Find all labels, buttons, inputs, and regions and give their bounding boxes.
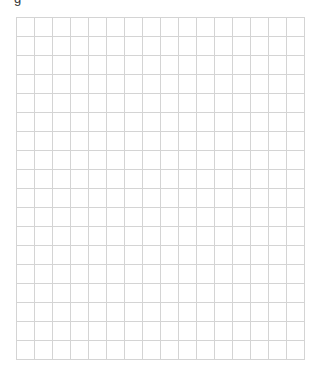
grid-cell	[251, 94, 269, 113]
grid-cell	[269, 170, 287, 189]
grid-cell	[89, 246, 107, 265]
grid-cell	[89, 18, 107, 37]
grid-cell	[71, 284, 89, 303]
grid-cell	[143, 284, 161, 303]
grid-cell	[161, 151, 179, 170]
grid-cell	[143, 151, 161, 170]
grid-cell	[107, 208, 125, 227]
grid-cell	[107, 18, 125, 37]
grid-cell	[179, 75, 197, 94]
grid-cell	[107, 113, 125, 132]
grid-cell	[107, 322, 125, 341]
grid-cell	[287, 341, 305, 360]
grid-cell	[269, 75, 287, 94]
grid-cell	[197, 132, 215, 151]
grid-cell	[17, 151, 35, 170]
grid-cell	[17, 227, 35, 246]
grid-cell	[215, 246, 233, 265]
grid-cell	[125, 37, 143, 56]
grid-cell	[71, 75, 89, 94]
grid-cell	[197, 227, 215, 246]
grid-cell	[53, 151, 71, 170]
grid-cell	[161, 189, 179, 208]
grid-cell	[35, 227, 53, 246]
grid-cell	[161, 246, 179, 265]
grid-cell	[179, 37, 197, 56]
grid-cell	[197, 94, 215, 113]
grid-cell	[161, 75, 179, 94]
grid-cell	[233, 75, 251, 94]
grid-cell	[35, 18, 53, 37]
grid-cell	[143, 56, 161, 75]
grid-cell	[269, 341, 287, 360]
grid-cell	[161, 18, 179, 37]
grid-cell	[287, 322, 305, 341]
grid-cell	[143, 303, 161, 322]
grid-cell	[197, 37, 215, 56]
grid-cell	[17, 265, 35, 284]
grid-cell	[179, 151, 197, 170]
grid-cell	[53, 170, 71, 189]
grid-cell	[215, 265, 233, 284]
grid-cell	[17, 75, 35, 94]
grid-cell	[197, 322, 215, 341]
grid-cell	[251, 189, 269, 208]
grid-cell	[233, 113, 251, 132]
grid-cell	[269, 303, 287, 322]
grid-cell	[215, 75, 233, 94]
grid-cell	[197, 18, 215, 37]
grid-cell	[251, 227, 269, 246]
grid-cell	[17, 113, 35, 132]
grid-cell	[215, 94, 233, 113]
grid-cell	[35, 341, 53, 360]
grid-cell	[17, 208, 35, 227]
grid-cell	[233, 56, 251, 75]
grid-cell	[161, 56, 179, 75]
grid-cell	[251, 56, 269, 75]
grid-cell	[251, 37, 269, 56]
grid-cell	[143, 132, 161, 151]
grid-cell	[89, 303, 107, 322]
grid-cell	[287, 94, 305, 113]
grid-cell	[143, 170, 161, 189]
grid-cell	[179, 18, 197, 37]
grid-cell	[143, 227, 161, 246]
grid-cell	[233, 132, 251, 151]
grid-cell	[89, 284, 107, 303]
grid-cell	[251, 303, 269, 322]
grid-cell	[17, 37, 35, 56]
grid-cell	[233, 227, 251, 246]
grid-cell	[125, 303, 143, 322]
grid-cell	[53, 37, 71, 56]
grid-cell	[215, 132, 233, 151]
grid-cell	[179, 113, 197, 132]
grid-cell	[251, 170, 269, 189]
grid-cell	[89, 37, 107, 56]
grid-cell	[107, 341, 125, 360]
grid-cell	[125, 265, 143, 284]
grid-cell	[197, 265, 215, 284]
grid-cell	[125, 227, 143, 246]
grid-cell	[89, 170, 107, 189]
grid-cell	[215, 18, 233, 37]
grid-cell	[179, 56, 197, 75]
grid-cell	[107, 37, 125, 56]
grid-cell	[197, 189, 215, 208]
grid-cell	[53, 94, 71, 113]
grid-cell	[17, 341, 35, 360]
grid-cell	[197, 341, 215, 360]
grid-cell	[179, 170, 197, 189]
grid-cell	[17, 189, 35, 208]
grid-cell	[215, 56, 233, 75]
grid-cell	[125, 208, 143, 227]
grid-cell	[215, 303, 233, 322]
grid-cell	[71, 113, 89, 132]
grid-cell	[287, 227, 305, 246]
grid-cell	[215, 170, 233, 189]
grid-cell	[215, 341, 233, 360]
grid-cell	[125, 341, 143, 360]
grid-cell	[71, 56, 89, 75]
grid-cell	[71, 246, 89, 265]
grid-cell	[53, 227, 71, 246]
grid-cell	[269, 284, 287, 303]
